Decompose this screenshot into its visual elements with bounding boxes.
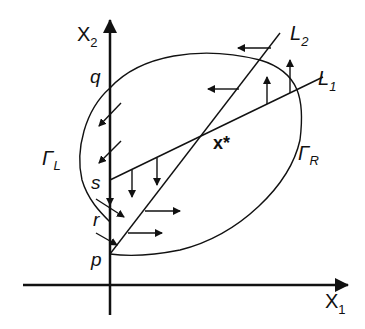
line-l1-label: L1 xyxy=(318,67,336,94)
arrow-down-right-icon xyxy=(96,233,117,245)
left-boundary-curve xyxy=(80,88,110,222)
phase-diagram: X2 X1 L2 L1 x* q s r p ΓL ΓR xyxy=(0,0,365,329)
equilibrium-point-label: x* xyxy=(213,133,230,153)
x1-axis-label: X1 xyxy=(325,290,346,317)
region-boundary-curve xyxy=(110,53,302,255)
line-l2 xyxy=(110,33,280,254)
point-q-label: q xyxy=(90,66,101,87)
point-p-label: p xyxy=(90,249,102,270)
region-gamma-l-label: ΓL xyxy=(42,147,61,173)
x2-axis-label: X2 xyxy=(77,23,98,50)
point-r-label: r xyxy=(93,209,100,230)
point-s-label: s xyxy=(91,172,101,193)
region-gamma-r-label: ΓR xyxy=(298,142,319,168)
line-l2-label: L2 xyxy=(290,22,309,49)
